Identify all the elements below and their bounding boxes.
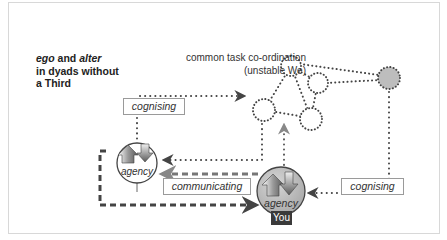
we-to-alter-arrow (164, 124, 262, 160)
alter-agency-label: agency (121, 166, 154, 177)
ego-agency-node: agency (257, 167, 305, 215)
communicating-label: communicating (163, 178, 251, 195)
node-left (253, 99, 275, 121)
ego-agency-label: agency (264, 197, 299, 209)
title-line-3: a Third (36, 77, 119, 90)
alter-agency-node: agency (117, 143, 157, 192)
you-tag: You (271, 211, 292, 225)
diagram-canvas: agency agency (0, 0, 447, 240)
edge-midright-external (327, 80, 379, 83)
cognising-left-label: cognising (123, 98, 185, 115)
title-alter: alter (79, 52, 101, 64)
edge-top-external (300, 64, 379, 75)
node-mid-right (308, 73, 328, 93)
node-bottom (300, 108, 322, 130)
diagram-title: ego and alter in dyads without a Third (36, 52, 119, 90)
caption-line-2: (unstable We) (140, 65, 306, 78)
caption-line-1: common task co-ordination (140, 52, 306, 65)
title-line-2: in dyads without (36, 65, 119, 78)
title-and: and (55, 52, 80, 64)
cognising-right-label: cognising (341, 178, 404, 195)
we-caption: common task co-ordination (unstable We) (140, 52, 306, 77)
node-external (378, 67, 400, 89)
title-ego: ego (36, 52, 55, 64)
